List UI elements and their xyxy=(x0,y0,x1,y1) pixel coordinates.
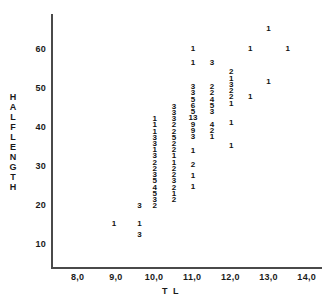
x-tick-label: 11,0 xyxy=(177,272,207,282)
x-axis-line xyxy=(51,267,322,269)
y-axis-title-letter: G xyxy=(6,162,20,172)
data-point-count: 1 xyxy=(137,220,141,228)
data-point-count: 1 xyxy=(210,133,214,141)
data-point-count: 3 xyxy=(137,231,141,239)
data-point-count: 1 xyxy=(191,183,195,191)
data-point-count: 2 xyxy=(153,202,157,210)
data-point-count: 1 xyxy=(285,45,289,53)
y-axis-title-letter: H xyxy=(6,182,20,192)
data-point-count: 1 xyxy=(191,147,195,155)
y-axis-title: HALFLENGTH xyxy=(6,92,20,192)
x-tick-label: 8,0 xyxy=(63,272,93,282)
data-point-count: 1 xyxy=(229,142,233,150)
data-point-count: 1 xyxy=(229,100,233,108)
data-point-count: 2 xyxy=(191,161,195,169)
y-axis-title-letter: N xyxy=(6,152,20,162)
data-point-count: 1 xyxy=(191,172,195,180)
y-tick-label: 10 xyxy=(24,239,46,249)
data-point-count: 1 xyxy=(191,45,195,53)
y-axis-title-letter: T xyxy=(6,172,20,182)
data-point-count: 1 xyxy=(248,45,252,53)
y-tick-label: 60 xyxy=(24,44,46,54)
data-point-count: 1 xyxy=(229,119,233,127)
y-axis-title-letter: F xyxy=(6,122,20,132)
y-axis-title-letter: A xyxy=(6,102,20,112)
data-point-count: 1 xyxy=(112,220,116,228)
y-tick-label: 20 xyxy=(24,200,46,210)
y-axis-title-letter: L xyxy=(6,112,20,122)
y-axis-line xyxy=(51,14,53,269)
data-point-count: 1 xyxy=(248,93,252,101)
data-point-count: 3 xyxy=(137,202,141,210)
y-axis-title-letter: L xyxy=(6,132,20,142)
x-tick-label: 14,0 xyxy=(292,272,322,282)
y-axis-title-letter: H xyxy=(6,92,20,102)
data-point-count: 1 xyxy=(266,78,270,86)
x-tick-label: 9,0 xyxy=(101,272,131,282)
data-point-count: 3 xyxy=(210,108,214,116)
x-axis-title: T L xyxy=(151,286,191,296)
data-point-count: 2 xyxy=(172,196,176,204)
y-axis-title-letter: E xyxy=(6,142,20,152)
data-point-count: 1 xyxy=(191,59,195,67)
data-point-count: 3 xyxy=(210,59,214,67)
y-tick-label: 50 xyxy=(24,83,46,93)
chart-figure: HALFLENGTH T L 605040302010 8,09,010,011… xyxy=(0,0,330,305)
data-point-count: 3 xyxy=(191,133,195,141)
y-tick-label: 30 xyxy=(24,161,46,171)
x-tick-label: 10,0 xyxy=(139,272,169,282)
data-point-count: 1 xyxy=(266,25,270,33)
y-tick-label: 40 xyxy=(24,122,46,132)
plot-axes xyxy=(0,0,330,305)
x-tick-label: 13,0 xyxy=(254,272,284,282)
x-tick-label: 12,0 xyxy=(215,272,245,282)
